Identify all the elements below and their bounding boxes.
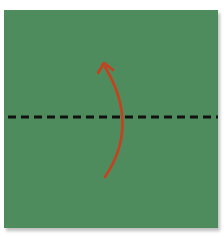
- fold-arrow-icon: [105, 67, 123, 177]
- fold-diagram: [0, 0, 224, 237]
